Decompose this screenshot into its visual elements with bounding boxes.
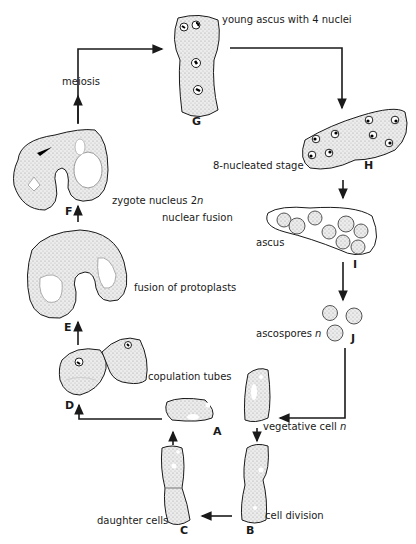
letter-j: J [351, 333, 355, 345]
ploidy-n-vegetative: n [340, 421, 346, 432]
letter-h: H [364, 160, 373, 172]
ploidy-2n: n [197, 195, 203, 206]
vegetative-cell-n [244, 369, 270, 422]
young-ascus-g [174, 15, 219, 116]
label-copulation-tubes: copulation tubes [148, 371, 232, 383]
label-daughter-cells: daughter cells [97, 515, 168, 527]
letter-d: D [65, 400, 74, 412]
letter-g: G [192, 116, 201, 128]
label-cell-division: cell division [265, 510, 324, 522]
zygote-text: zygote nucleus 2 [112, 195, 197, 206]
label-8-nucleated: 8-nucleated stage [213, 160, 304, 172]
eight-nucleated-h [302, 109, 407, 169]
zygote-f [14, 130, 109, 210]
label-vegetative-cell: vegetative cell n [263, 421, 346, 433]
label-meiosis: meiosis [62, 76, 100, 88]
letter-a: A [213, 426, 222, 438]
letter-i: I [353, 259, 357, 271]
letter-c: C [180, 525, 188, 537]
label-nuclear-fusion: nuclear fusion [162, 212, 233, 224]
label-young-ascus: young ascus with 4 nuclei [222, 14, 352, 26]
vegetative-text: vegetative cell [263, 421, 337, 432]
ploidy-n: n [315, 328, 321, 339]
ascospores-j [323, 306, 363, 342]
label-ascus: ascus [256, 237, 284, 249]
vegetative-cell-a [166, 398, 213, 421]
letter-e: E [64, 322, 72, 334]
letter-f: F [65, 206, 73, 218]
letter-b: B [246, 525, 254, 537]
label-fusion-protoplasts: fusion of protoplasts [134, 282, 236, 294]
ascospores-text: ascospores [256, 328, 312, 339]
label-ascospores: ascospores n [256, 328, 321, 340]
protoplast-fusion-e [27, 230, 126, 318]
daughter-cells-c [161, 446, 190, 525]
label-zygote-nucleus: zygote nucleus 2n [112, 195, 203, 207]
copulation-tubes-d [59, 338, 147, 395]
